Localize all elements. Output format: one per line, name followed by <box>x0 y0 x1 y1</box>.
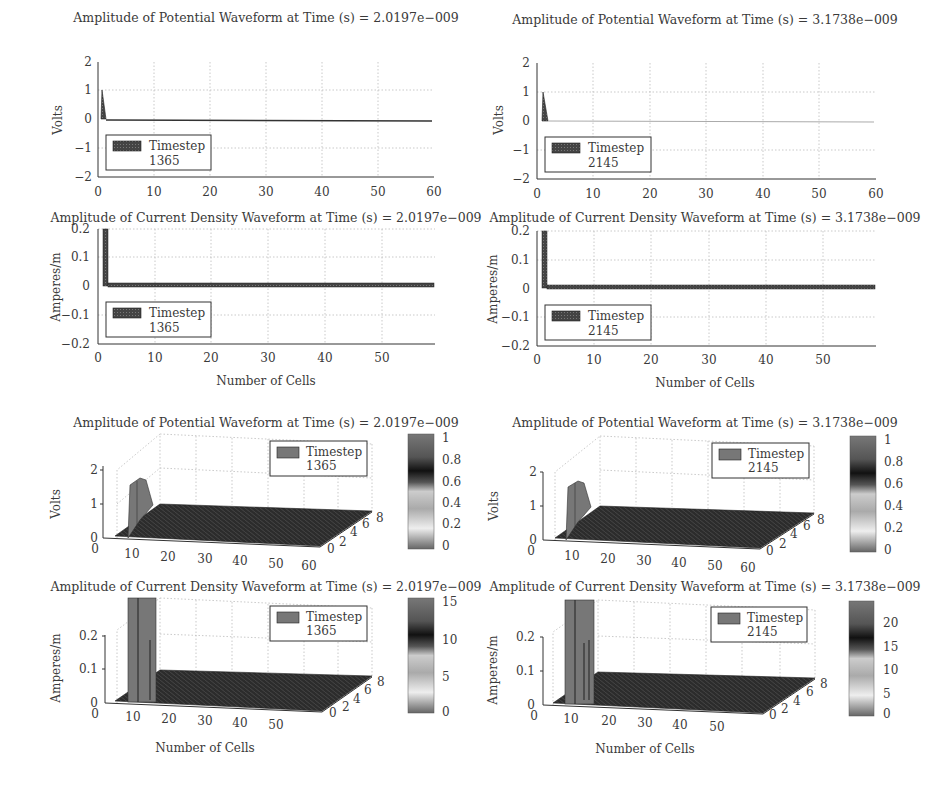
legend-swatch-icon <box>113 308 141 318</box>
svg-text:0: 0 <box>94 185 102 199</box>
svg-text:0: 0 <box>533 353 541 367</box>
svg-text:2: 2 <box>339 535 347 549</box>
svg-text:2145: 2145 <box>747 625 778 639</box>
legend-swatch-icon <box>552 143 580 153</box>
svg-text:Timestep: Timestep <box>588 141 644 155</box>
svg-text:30: 30 <box>637 716 652 730</box>
x-axis-label: Number of Cells <box>595 742 695 756</box>
svg-text:6: 6 <box>803 519 811 533</box>
svg-text:40: 40 <box>314 185 329 199</box>
svg-text:50: 50 <box>268 718 283 732</box>
chart-title: Amplitude of Current Density Waveform at… <box>488 210 920 225</box>
svg-text:0: 0 <box>442 705 450 719</box>
svg-text:40: 40 <box>672 718 687 732</box>
svg-text:1: 1 <box>442 431 450 445</box>
svg-text:0: 0 <box>522 282 530 296</box>
y-axis-label: Amperes/m <box>49 252 63 323</box>
svg-text:2: 2 <box>342 700 350 714</box>
svg-text:10: 10 <box>564 549 579 563</box>
svg-text:15: 15 <box>883 640 898 654</box>
svg-text:8: 8 <box>376 511 384 525</box>
x-axis-label: Number of Cells <box>655 376 755 390</box>
svg-text:0: 0 <box>527 544 535 558</box>
legend-swatch-icon <box>277 612 299 623</box>
current-3d-right-chart: Amplitude of Current Density Waveform at… <box>486 579 921 756</box>
x-axis-label: Number of Cells <box>216 374 316 388</box>
svg-text:0.8: 0.8 <box>884 455 903 469</box>
svg-text:0.2: 0.2 <box>442 517 461 531</box>
svg-text:Timestep: Timestep <box>149 139 205 153</box>
svg-text:1: 1 <box>90 497 98 511</box>
svg-text:60: 60 <box>868 187 883 201</box>
svg-text:10: 10 <box>585 187 600 201</box>
svg-text:50: 50 <box>370 185 385 199</box>
svg-text:0.1: 0.1 <box>511 253 530 267</box>
svg-text:10: 10 <box>124 547 139 561</box>
svg-text:20: 20 <box>160 550 175 564</box>
svg-text:20: 20 <box>202 185 217 199</box>
svg-text:0: 0 <box>327 542 335 556</box>
svg-text:0: 0 <box>91 707 99 721</box>
svg-text:0: 0 <box>769 708 777 722</box>
svg-text:1: 1 <box>522 85 530 99</box>
colorbar: 1 0.8 0.6 0.4 0.2 0 <box>408 431 461 553</box>
svg-text:1365: 1365 <box>149 321 180 335</box>
svg-text:0: 0 <box>84 112 92 126</box>
colorbar: 20 15 10 5 0 <box>849 601 898 721</box>
legend-swatch-icon <box>552 311 580 321</box>
colorbar: 15 10 5 0 <box>408 595 457 719</box>
svg-text:10: 10 <box>563 712 578 726</box>
svg-text:10: 10 <box>146 185 161 199</box>
svg-text:2: 2 <box>529 465 537 479</box>
svg-text:−2: −2 <box>512 172 530 186</box>
svg-text:4: 4 <box>790 527 798 541</box>
svg-text:0.1: 0.1 <box>79 662 98 676</box>
svg-text:−1: −1 <box>74 141 92 155</box>
legend: Timestep 1365 <box>106 135 211 170</box>
legend: Timestep 2145 <box>545 305 651 340</box>
chart-title: Amplitude of Potential Waveform at Time … <box>72 415 459 430</box>
svg-text:50: 50 <box>815 353 830 367</box>
svg-text:0.6: 0.6 <box>442 475 461 489</box>
chart-title: Amplitude of Potential Waveform at Time … <box>511 12 898 27</box>
svg-text:Timestep: Timestep <box>149 306 205 320</box>
svg-text:0: 0 <box>766 544 774 558</box>
y-axis-label: Volts <box>51 105 65 136</box>
y-axis-label: Volts <box>492 105 506 136</box>
legend-swatch-icon <box>277 447 299 458</box>
svg-text:0: 0 <box>530 709 538 723</box>
legend-swatch-icon <box>718 613 740 624</box>
current-2d-left-chart: Amplitude of Current Density Waveform at… <box>49 210 482 388</box>
svg-text:2: 2 <box>90 463 98 477</box>
svg-text:20: 20 <box>203 351 218 365</box>
svg-text:40: 40 <box>232 554 247 568</box>
z-axis-label: Volts <box>49 489 63 520</box>
legend: Timestep 1365 <box>106 302 211 337</box>
svg-text:50: 50 <box>707 559 722 573</box>
svg-text:30: 30 <box>260 351 275 365</box>
svg-text:0: 0 <box>883 707 891 721</box>
current-2d-right-chart: Amplitude of Current Density Waveform at… <box>486 210 921 390</box>
svg-text:15: 15 <box>442 595 457 609</box>
svg-text:6: 6 <box>364 683 372 697</box>
potential-2d-left-chart: Amplitude of Potential Waveform at Time … <box>51 10 459 199</box>
svg-text:0: 0 <box>329 706 337 720</box>
svg-text:8: 8 <box>817 513 825 527</box>
svg-text:0.4: 0.4 <box>884 499 903 513</box>
svg-text:2145: 2145 <box>748 461 779 475</box>
potential-3d-left-chart: Amplitude of Potential Waveform at Time … <box>49 415 461 573</box>
svg-text:Timestep: Timestep <box>588 309 644 323</box>
svg-text:Timestep: Timestep <box>747 611 803 625</box>
svg-text:10: 10 <box>125 710 140 724</box>
svg-text:0.2: 0.2 <box>71 222 90 236</box>
svg-text:10: 10 <box>442 633 457 647</box>
svg-text:6: 6 <box>806 685 814 699</box>
svg-text:5: 5 <box>883 687 891 701</box>
svg-text:0.1: 0.1 <box>516 664 535 678</box>
svg-text:−0.1: −0.1 <box>61 308 90 322</box>
svg-text:5: 5 <box>442 670 450 684</box>
svg-text:40: 40 <box>758 353 773 367</box>
svg-text:−0.2: −0.2 <box>61 337 90 351</box>
svg-text:30: 30 <box>701 353 716 367</box>
chart-title: Amplitude of Current Density Waveform at… <box>49 210 481 225</box>
